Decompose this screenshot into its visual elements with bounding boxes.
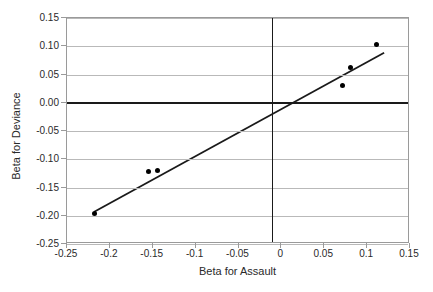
data-point (146, 169, 151, 174)
x-axis-tick-label: 0 (278, 248, 284, 259)
zero-axis-horizontal (67, 102, 408, 104)
x-axis-tick-label: 0.15 (399, 248, 418, 259)
y-axis-tick-label: -0.05 (0, 125, 59, 136)
y-axis-tick-label: 0.05 (0, 68, 59, 79)
x-axis-tick-mark (195, 243, 196, 248)
x-axis-title: Beta for Assault (66, 265, 409, 277)
gridline-horizontal (67, 131, 408, 132)
data-point (92, 211, 97, 216)
x-axis-tick-mark (366, 243, 367, 248)
x-axis-tick-mark (109, 243, 110, 248)
y-axis-tick-label: -0.20 (0, 209, 59, 220)
y-axis-tick-mark (61, 130, 66, 131)
data-point (155, 168, 160, 173)
y-axis-tick-mark (61, 215, 66, 216)
x-axis-tick-label: 0.1 (359, 248, 373, 259)
y-axis-tick-mark (61, 158, 66, 159)
gridline-horizontal (67, 216, 408, 217)
y-axis-tick-mark (61, 74, 66, 75)
gridline-horizontal (67, 18, 408, 19)
gridline-horizontal (67, 159, 408, 160)
y-axis-tick-label: -0.10 (0, 153, 59, 164)
zero-axis-vertical (272, 18, 274, 242)
scatter-chart: Beta for Assault Beta for Deviance 0.150… (0, 0, 433, 292)
x-axis-tick-label: -0.05 (226, 248, 249, 259)
x-axis-tick-label: -0.2 (100, 248, 117, 259)
y-axis-tick-label: 0.00 (0, 96, 59, 107)
x-axis-tick-mark (280, 243, 281, 248)
x-axis-tick-label: -0.25 (55, 248, 78, 259)
y-axis-tick-label: 0.15 (0, 12, 59, 23)
x-axis-tick-label: -0.1 (186, 248, 203, 259)
y-axis-tick-label: -0.25 (0, 238, 59, 249)
gridline-horizontal (67, 188, 408, 189)
gridline-horizontal (67, 46, 408, 47)
y-axis-tick-label: -0.15 (0, 181, 59, 192)
x-axis-tick-mark (238, 243, 239, 248)
x-axis-tick-mark (66, 243, 67, 248)
y-axis-tick-mark (61, 187, 66, 188)
y-axis-tick-mark (61, 102, 66, 103)
x-axis-tick-mark (409, 243, 410, 248)
x-axis-tick-mark (323, 243, 324, 248)
plot-area (66, 17, 409, 243)
x-axis-tick-label: -0.15 (140, 248, 163, 259)
x-axis-tick-mark (152, 243, 153, 248)
y-axis-tick-label: 0.10 (0, 40, 59, 51)
y-axis-tick-mark (61, 17, 66, 18)
x-axis-tick-label: 0.05 (314, 248, 333, 259)
gridline-horizontal (67, 75, 408, 76)
y-axis-tick-mark (61, 45, 66, 46)
regression-line (67, 18, 408, 242)
